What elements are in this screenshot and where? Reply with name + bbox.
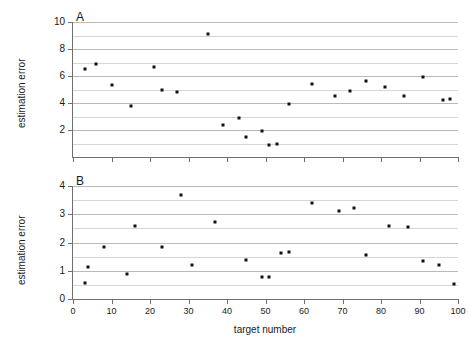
data-point <box>191 264 194 267</box>
y-axis-tick <box>68 243 73 244</box>
data-point <box>406 225 409 228</box>
x-axis-tick-label: 10 <box>106 306 116 316</box>
gridline-minor <box>73 117 458 118</box>
gridline-major <box>73 186 458 187</box>
data-point <box>437 263 440 266</box>
data-point <box>102 245 105 248</box>
panel-a-y-axis-title: estimation error <box>16 59 27 128</box>
data-point <box>364 254 367 257</box>
data-point <box>364 80 367 83</box>
data-point <box>245 259 248 262</box>
y-axis-tick-label: 3 <box>59 209 65 219</box>
y-axis-tick-label: 8 <box>59 44 65 54</box>
data-point <box>279 252 282 255</box>
panel-a-plot-area: 246810 <box>72 22 458 158</box>
y-axis-tick <box>68 22 73 23</box>
data-point <box>441 99 444 102</box>
x-axis-tick-label: 80 <box>376 306 386 316</box>
y-axis-tick-label: 2 <box>59 125 65 135</box>
data-point <box>403 95 406 98</box>
x-axis-tick-label: 30 <box>183 306 193 316</box>
gridline-minor <box>73 36 458 37</box>
data-point <box>129 104 132 107</box>
data-point <box>422 76 425 79</box>
gridline-major <box>73 49 458 50</box>
y-axis-tick <box>68 214 73 215</box>
gridline-minor <box>73 257 458 258</box>
data-point <box>237 116 240 119</box>
data-point <box>449 97 452 100</box>
x-axis-tick-label: 60 <box>299 306 309 316</box>
data-point <box>125 273 128 276</box>
data-point <box>353 207 356 210</box>
data-point <box>268 143 271 146</box>
x-axis-tick <box>189 157 190 162</box>
y-axis-tick <box>68 103 73 104</box>
x-axis-tick-label: 20 <box>145 306 155 316</box>
x-axis-tick <box>189 299 190 304</box>
gridline-minor <box>73 228 458 229</box>
data-point <box>422 259 425 262</box>
data-point <box>83 68 86 71</box>
y-axis-tick-label: 10 <box>54 17 65 27</box>
panel-b-plot-area: 012340102030405060708090100 <box>72 186 458 300</box>
gridline-major <box>73 130 458 131</box>
gridline-major <box>73 76 458 77</box>
x-axis-tick <box>227 157 228 162</box>
data-point <box>310 83 313 86</box>
gridline-major <box>73 214 458 215</box>
x-axis-tick <box>381 157 382 162</box>
data-point <box>349 89 352 92</box>
x-axis-tick <box>304 299 305 304</box>
x-axis-tick <box>73 299 74 304</box>
gridline-minor <box>73 200 458 201</box>
data-point <box>260 275 263 278</box>
data-point <box>160 88 163 91</box>
y-axis-tick-label: 2 <box>59 238 65 248</box>
x-axis-tick <box>150 157 151 162</box>
x-axis-tick <box>266 299 267 304</box>
x-axis-tick <box>420 157 421 162</box>
gridline-major <box>73 22 458 23</box>
data-point <box>337 210 340 213</box>
data-point <box>287 103 290 106</box>
x-axis-title: target number <box>234 324 296 335</box>
y-axis-tick <box>68 271 73 272</box>
x-axis-tick <box>458 157 459 162</box>
y-axis-tick-label: 4 <box>59 98 65 108</box>
x-axis-tick-label: 50 <box>260 306 270 316</box>
y-axis-tick <box>68 76 73 77</box>
y-axis-tick-label: 6 <box>59 71 65 81</box>
data-point <box>133 225 136 228</box>
data-point <box>87 266 90 269</box>
x-axis-tick <box>381 299 382 304</box>
data-point <box>245 135 248 138</box>
gridline-minor <box>73 63 458 64</box>
data-point <box>310 201 313 204</box>
x-axis-tick-label: 90 <box>414 306 424 316</box>
data-point <box>453 283 456 286</box>
x-axis-tick-label: 0 <box>70 306 75 316</box>
data-point <box>83 282 86 285</box>
data-point <box>214 221 217 224</box>
y-axis-tick <box>68 49 73 50</box>
data-point <box>387 224 390 227</box>
data-point <box>160 245 163 248</box>
x-axis-tick <box>227 299 228 304</box>
data-point <box>268 275 271 278</box>
x-axis-tick <box>420 299 421 304</box>
x-axis-tick <box>73 157 74 162</box>
data-point <box>383 85 386 88</box>
data-point <box>206 33 209 36</box>
x-axis-tick <box>112 157 113 162</box>
y-axis-tick <box>68 130 73 131</box>
gridline-major <box>73 271 458 272</box>
x-axis-tick-label: 40 <box>222 306 232 316</box>
data-point <box>260 130 263 133</box>
data-point <box>175 91 178 94</box>
scatter-figure: A estimation error 246810 B estimation e… <box>0 0 470 349</box>
y-axis-tick-label: 4 <box>59 181 65 191</box>
y-axis-tick-label: 0 <box>59 294 65 304</box>
data-point <box>110 84 113 87</box>
panel-a: A estimation error 246810 <box>0 0 470 175</box>
